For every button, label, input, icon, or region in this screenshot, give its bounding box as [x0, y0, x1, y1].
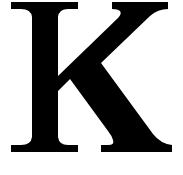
letter-k-glyph [0, 0, 183, 175]
glyph-canvas: K [0, 0, 183, 175]
